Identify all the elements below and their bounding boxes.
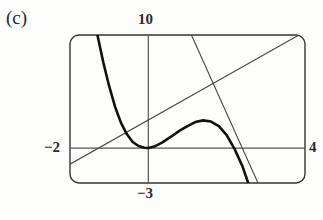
tangent-line-descending bbox=[191, 35, 258, 183]
figure-container: (c) 10 −2 4 −3 bbox=[0, 0, 323, 220]
plot-area bbox=[0, 0, 323, 220]
plot-content bbox=[70, 32, 305, 183]
cubic-curve bbox=[97, 35, 248, 183]
tangent-line-ascending bbox=[70, 32, 305, 165]
viewing-window-frame bbox=[70, 35, 305, 183]
